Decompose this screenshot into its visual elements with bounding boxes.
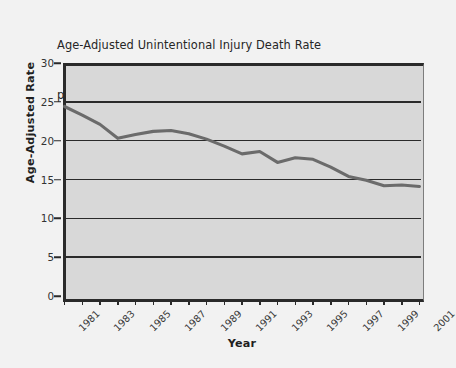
- x-tick-mark-2001: [419, 299, 421, 305]
- x-tick-mark-1985: [135, 299, 137, 305]
- x-tick-mark-1984: [117, 299, 119, 305]
- y-tick-mark-15: [54, 179, 61, 181]
- y-tick-label-10: 10: [28, 212, 54, 224]
- x-tick-mark-1994: [295, 299, 297, 305]
- x-tick-label-1997: 1997: [360, 308, 385, 333]
- x-tick-mark-2000: [401, 299, 403, 305]
- y-tick-mark-25: [54, 101, 61, 103]
- y-tick-label-5: 5: [28, 251, 54, 263]
- x-tick-label-1995: 1995: [324, 308, 349, 333]
- x-tick-mark-1987: [170, 299, 172, 305]
- x-tick-mark-1982: [82, 299, 84, 305]
- y-tick-label-0: 0: [28, 290, 54, 302]
- x-tick-mark-1999: [383, 299, 385, 305]
- y-tick-mark-10: [54, 218, 61, 220]
- x-tick-label-2001: 2001: [431, 308, 456, 333]
- x-tick-label-1983: 1983: [111, 308, 136, 333]
- x-tick-label-1999: 1999: [395, 308, 420, 333]
- y-tick-mark-0: [54, 295, 61, 297]
- x-tick-mark-1996: [330, 299, 332, 305]
- x-tick-mark-1995: [312, 299, 314, 305]
- x-tick-mark-1988: [188, 299, 190, 305]
- y-tick-mark-5: [54, 256, 61, 258]
- data-series-line: [63, 63, 421, 296]
- x-tick-mark-1997: [348, 299, 350, 305]
- y-axis-title: Age-Adjusted Rate: [24, 48, 37, 198]
- y-tick-mark-30: [54, 62, 61, 64]
- y-tick-mark-20: [54, 140, 61, 142]
- x-tick-label-1981: 1981: [76, 308, 101, 333]
- x-tick-label-1987: 1987: [182, 308, 207, 333]
- x-tick-label-1991: 1991: [253, 308, 278, 333]
- x-tick-mark-1993: [277, 299, 279, 305]
- x-tick-label-1993: 1993: [289, 308, 314, 333]
- x-tick-mark-1992: [259, 299, 261, 305]
- x-tick-mark-1989: [206, 299, 208, 305]
- x-tick-mark-1990: [224, 299, 226, 305]
- x-tick-mark-1983: [99, 299, 101, 305]
- chart-title-line-1: Age-Adjusted Unintentional Injury Death …: [57, 37, 437, 54]
- x-tick-label-1989: 1989: [218, 308, 243, 333]
- x-tick-mark-1991: [241, 299, 243, 305]
- x-tick-mark-1998: [366, 299, 368, 305]
- x-tick-mark-1986: [153, 299, 155, 305]
- x-axis-title: Year: [63, 337, 421, 350]
- x-tick-label-1985: 1985: [147, 308, 172, 333]
- x-axis: 1981198319851987198919911993199519971999…: [63, 299, 421, 359]
- x-tick-mark-1981: [64, 299, 66, 305]
